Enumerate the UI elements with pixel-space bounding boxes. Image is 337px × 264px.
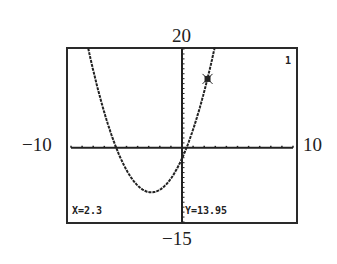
x-readout: X=2.3 (72, 205, 102, 216)
y-min-label: −15 (162, 229, 192, 248)
x-max-label: 10 (303, 135, 322, 154)
y-readout: Y=13.95 (185, 205, 227, 216)
parabola-curve (88, 47, 215, 192)
function-number: 1 (285, 55, 291, 66)
y-max-label: 20 (172, 26, 191, 45)
x-min-label: −10 (22, 135, 52, 154)
graph-plot (66, 47, 298, 224)
